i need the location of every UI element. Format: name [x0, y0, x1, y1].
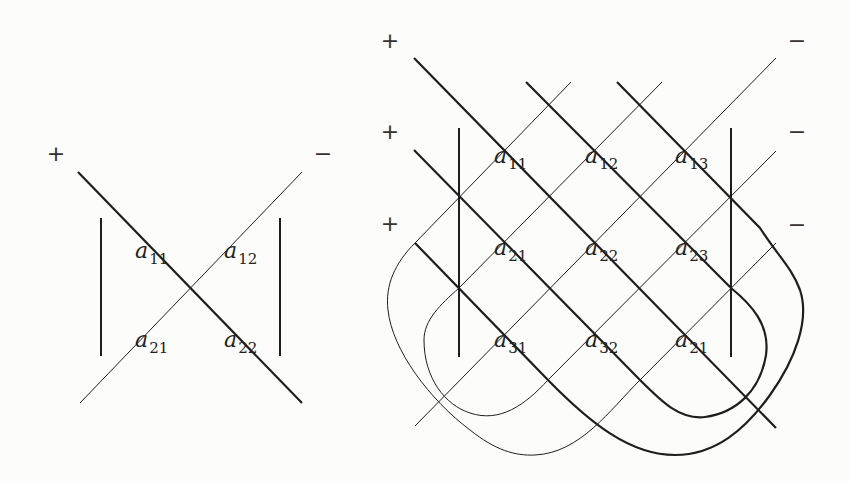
entry-subscript: 31 — [508, 339, 527, 357]
entry-subscript: 11 — [508, 155, 527, 173]
entry-symbol: a — [224, 327, 237, 352]
d3x3-matrix-entry: a11 — [494, 145, 527, 167]
d3x3-matrix-entry: a22 — [585, 237, 618, 259]
entry-subscript: 11 — [149, 250, 168, 268]
d3x3-plus-sign: + — [381, 121, 399, 143]
entry-symbol: a — [494, 327, 507, 352]
d2x2-matrix-entry: a11 — [135, 240, 168, 262]
entry-symbol: a — [585, 327, 598, 352]
d3x3-matrix-entry: a13 — [675, 145, 708, 167]
d3x3-minus-sign: − — [788, 30, 806, 52]
d2x2-matrix-entry: a21 — [135, 329, 168, 351]
entry-subscript: 13 — [689, 155, 708, 173]
entry-subscript: 12 — [599, 155, 618, 173]
determinant-diagram-canvas — [0, 0, 851, 481]
entry-symbol: a — [585, 235, 598, 260]
d3x3-minus-sign: − — [788, 214, 806, 236]
entry-symbol: a — [135, 238, 148, 263]
entry-subscript: 21 — [149, 339, 168, 357]
d3x3-minus-sign: − — [788, 121, 806, 143]
d3x3-plus-sign: + — [381, 30, 399, 52]
d3x3-matrix-entry: a31 — [494, 329, 527, 351]
d2x2-matrix-entry: a12 — [224, 240, 257, 262]
d3x3-plus-sign: + — [381, 213, 399, 235]
d3x3-matrix-entry: a21 — [494, 237, 527, 259]
d3x3-matrix-entry: a23 — [675, 237, 708, 259]
entry-symbol: a — [675, 235, 688, 260]
d2x2-minus-sign: − — [314, 143, 332, 165]
entry-subscript: 12 — [238, 250, 257, 268]
entry-symbol: a — [224, 238, 237, 263]
entry-symbol: a — [675, 327, 688, 352]
entry-subscript: 22 — [599, 247, 618, 265]
d3x3-matrix-entry: a12 — [585, 145, 618, 167]
entry-subscript: 22 — [238, 339, 257, 357]
entry-subscript: 23 — [689, 247, 708, 265]
entry-symbol: a — [135, 327, 148, 352]
d2x2-matrix-entry: a22 — [224, 329, 257, 351]
entry-symbol: a — [675, 143, 688, 168]
d3x3-matrix-entry: a21 — [675, 329, 708, 351]
d2x2-plus-sign: + — [47, 143, 65, 165]
entry-symbol: a — [494, 235, 507, 260]
entry-symbol: a — [494, 143, 507, 168]
diagram-2x2 — [78, 172, 302, 403]
d3x3-matrix-entry: a32 — [585, 329, 618, 351]
entry-subscript: 21 — [508, 247, 527, 265]
entry-subscript: 32 — [599, 339, 618, 357]
entry-subscript: 21 — [689, 339, 708, 357]
entry-symbol: a — [585, 143, 598, 168]
